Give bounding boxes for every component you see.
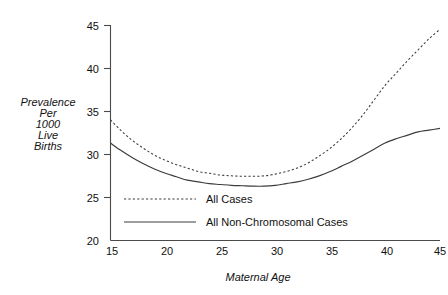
x-tick-label-20: 20 <box>161 245 173 257</box>
y-tick-label-40: 40 <box>87 63 99 75</box>
prevalence-by-maternal-age-chart: 45 40 35 30 25 20 15 20 25 30 35 40 45 M… <box>0 0 448 295</box>
x-tick-label-15: 15 <box>106 245 118 257</box>
y-axis-title-line-5: Births <box>34 140 63 152</box>
y-tick-label-25: 25 <box>87 192 99 204</box>
x-tick-label-40: 40 <box>381 245 393 257</box>
y-axis-ticks: 45 40 35 30 25 20 <box>87 20 111 247</box>
x-tick-label-25: 25 <box>216 245 228 257</box>
y-tick-label-45: 45 <box>87 20 99 32</box>
plot-area <box>111 29 441 186</box>
legend-label-all-non-chromosomal-cases: All Non-Chromosomal Cases <box>206 216 348 228</box>
y-tick-label-35: 35 <box>87 106 99 118</box>
series-line-all-cases <box>111 29 441 176</box>
legend-label-all-cases: All Cases <box>206 193 253 205</box>
y-tick-label-30: 30 <box>87 149 99 161</box>
x-axis-title: Maternal Age <box>225 271 290 283</box>
x-tick-label-45: 45 <box>434 245 446 257</box>
y-axis-title: Prevalence Per 1000 Live Births <box>20 96 75 152</box>
x-axis-ticks: 15 20 25 30 35 40 45 <box>106 245 446 257</box>
x-tick-label-35: 35 <box>326 245 338 257</box>
y-tick-label-20: 20 <box>87 235 99 247</box>
x-tick-label-30: 30 <box>271 245 283 257</box>
chart-canvas: 45 40 35 30 25 20 15 20 25 30 35 40 45 M… <box>0 0 448 295</box>
legend: All Cases All Non-Chromosomal Cases <box>124 193 348 228</box>
